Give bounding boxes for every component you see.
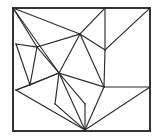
edge-hub-to-bottom-edge-node <box>59 73 85 104</box>
edge-left-lower-to-bottom-apex <box>16 90 85 130</box>
edge-fan-node-to-frame-tr <box>105 8 150 50</box>
edge-hub-to-low-mid <box>55 73 59 104</box>
figure-container <box>0 0 158 139</box>
edge-fan-node-to-right-inner <box>104 50 105 87</box>
edge-hub-to-bottom-apex <box>59 73 85 130</box>
edge-left-upper-to-left-inner <box>16 44 37 47</box>
edge-upper-mid-to-top-mid <box>80 8 105 34</box>
edge-left-upper-to-low-left <box>16 44 30 85</box>
edge-hub-to-right-inner <box>59 73 104 87</box>
edge-left-inner-to-low-left <box>30 47 37 85</box>
triangulated-mesh-drawing <box>0 0 158 139</box>
edge-low-left-to-left-lower <box>16 85 30 90</box>
edge-tl-to-upper-mid <box>13 8 80 34</box>
edge-low-mid-to-bottom-apex <box>55 104 85 130</box>
mesh-edge-group <box>13 8 150 130</box>
edge-left-inner-to-hub <box>37 47 59 73</box>
edge-tl-to-hub <box>13 8 59 73</box>
